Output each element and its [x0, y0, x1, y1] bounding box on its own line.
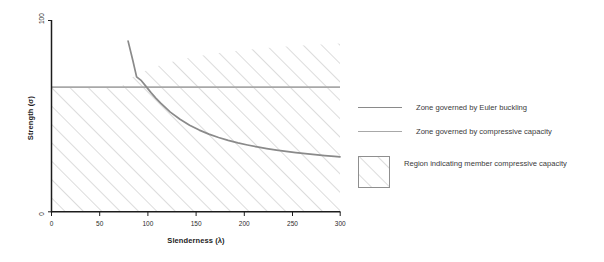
- y-tick-label-100: 100: [38, 13, 45, 24]
- strength-slenderness-chart: 0 50 100 150 200 250 300 0 100 Slenderne…: [0, 0, 350, 262]
- legend-item-capacity-region: Region indicating member compressive cap…: [358, 156, 567, 188]
- legend-label-euler: Zone governed by Euler buckling: [416, 104, 527, 112]
- chart-figure: 0 50 100 150 200 250 300 0 100 Slenderne…: [0, 0, 604, 262]
- x-tick-label-200: 200: [239, 220, 250, 227]
- x-tick-label-300: 300: [335, 220, 346, 227]
- legend-item-compressive-capacity: Zone governed by compressive capacity: [358, 128, 552, 136]
- x-tick-label-0: 0: [50, 220, 54, 227]
- legend-line-swatch-euler: [358, 107, 402, 108]
- x-tick-label-100: 100: [142, 220, 153, 227]
- legend-label-compressive: Zone governed by compressive capacity: [416, 128, 552, 136]
- legend-line-swatch-compressive: [358, 131, 402, 132]
- legend-item-euler-buckling: Zone governed by Euler buckling: [358, 104, 527, 112]
- chart-plot-pane: 0 50 100 150 200 250 300 0 100 Slenderne…: [0, 0, 350, 262]
- legend-label-region: Region indicating member compressive cap…: [404, 160, 567, 168]
- chart-legend: Zone governed by Euler buckling Zone gov…: [358, 0, 604, 262]
- hatch-swatch-icon: [359, 157, 389, 187]
- legend-hatched-swatch: [358, 156, 390, 188]
- x-tick-label-150: 150: [191, 220, 202, 227]
- x-tick-label-250: 250: [287, 220, 298, 227]
- x-axis-ticks: [52, 212, 341, 216]
- y-tick-label-0: 0: [38, 212, 45, 216]
- x-tick-label-50: 50: [96, 220, 104, 227]
- x-axis-title: Slenderness (λ): [167, 236, 225, 245]
- y-axis-title: Strength (σ): [26, 95, 35, 140]
